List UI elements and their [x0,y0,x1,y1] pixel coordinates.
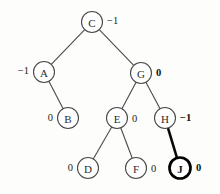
node-label-h: H [161,113,169,125]
balance-factor-a: −1 [18,65,29,76]
node-layer: CAGBEHDFJ [34,12,191,179]
node-label-g: G [137,68,145,80]
tree-node-a[interactable]: A [34,62,55,83]
tree-edge-g-h [146,82,160,108]
tree-edge-e-f [121,128,133,158]
tree-node-c[interactable]: C [82,12,103,33]
tree-node-d[interactable]: D [78,158,99,179]
tree-node-j[interactable]: J [170,158,191,179]
tree-edge-c-g [99,30,133,66]
balance-factor-c: −1 [107,15,118,26]
node-label-c: C [88,17,95,29]
node-label-f: F [133,163,139,175]
node-label-e: E [114,113,121,125]
tree-edge-e-d [93,127,111,159]
tree-node-h[interactable]: H [155,108,176,129]
tree-node-b[interactable]: B [58,108,79,129]
balance-factor-b: 0 [48,112,53,123]
balance-factor-e: 0 [132,113,137,124]
balance-factor-h: −1 [180,112,191,123]
tree-node-f[interactable]: F [126,158,147,179]
node-label-j: J [177,163,183,175]
balance-factor-d: 0 [68,162,73,173]
node-label-d: D [84,163,92,175]
balance-factor-g: 0 [156,67,161,78]
tree-edge-c-a [51,30,84,65]
tree-edge-a-b [49,81,63,108]
tree-edge-g-e [122,82,136,108]
avl-tree-diagram: CAGBEHDFJ −1−1000−1000 [0,0,220,194]
node-label-b: B [64,113,71,125]
tree-edge-h-j [168,128,177,158]
tree-canvas: CAGBEHDFJ −1−1000−1000 [0,0,220,194]
node-label-a: A [40,67,48,79]
edge-layer [49,30,177,159]
balance-factor-f: 0 [151,163,156,174]
tree-node-g[interactable]: G [131,63,152,84]
tree-node-e[interactable]: E [107,108,128,129]
balance-factor-j: 0 [196,162,201,173]
